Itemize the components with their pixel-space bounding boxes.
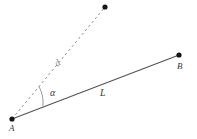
angle-arc-alpha [39, 87, 43, 107]
angle-label-alpha: α [50, 88, 55, 98]
point-label-a: A [9, 124, 15, 133]
point-label-b: B [177, 62, 183, 71]
figure-canvas: A B L d α [0, 0, 197, 139]
point-marker-d [102, 4, 107, 9]
geometry-diagram [0, 0, 197, 139]
segment-label-l: L [100, 88, 106, 98]
point-marker-a [9, 116, 14, 121]
solid-segment-ab [12, 55, 179, 119]
point-marker-b [176, 52, 181, 57]
